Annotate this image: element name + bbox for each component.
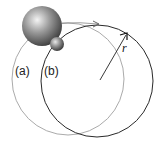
small-sphere [50, 37, 64, 51]
orbit-b-label: (b) [44, 64, 59, 78]
orbit-diagram: (a) (b) r [0, 0, 161, 147]
radius-label: r [122, 41, 127, 55]
orbit-a-label: (a) [15, 64, 30, 78]
